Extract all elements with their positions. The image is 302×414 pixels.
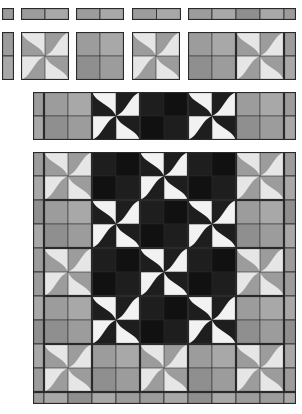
gray-pinwheel-block [236,344,284,392]
sashing-strip [76,8,124,20]
quilt-border-left [33,152,44,392]
gray-fourpatch-block [188,344,236,392]
gray-pinwheel-block [44,152,92,200]
gray-fourpatch-block [92,344,140,392]
bw-pinwheel-block [188,200,236,248]
corner-square [2,8,14,20]
quilt-border-right [284,152,296,392]
bw-pinwheel-block [188,92,236,140]
sashing-strip-vertical [284,92,296,140]
gray-fourpatch-block [44,92,92,140]
black-fourpatch-block [92,248,140,296]
bw-pinwheel-block [140,152,188,200]
black-fourpatch-block [140,296,188,344]
black-fourpatch-block [140,200,188,248]
gray-fourpatch-block [44,200,92,248]
sashing-strip-vertical [284,32,296,80]
black-fourpatch-block [188,152,236,200]
gray-pinwheel-block [44,344,92,392]
black-fourpatch-block [140,92,188,140]
black-fourpatch-block [92,152,140,200]
black-fourpatch-block [188,248,236,296]
gray-fourpatch-block [44,296,92,344]
gray-pinwheel-block [21,32,69,80]
bw-pinwheel-block [92,296,140,344]
gray-pinwheel-block [236,248,284,296]
sashing-strip [21,8,69,20]
gray-fourpatch-block [236,296,284,344]
bw-pinwheel-block [92,92,140,140]
gray-pinwheel-block [44,248,92,296]
gray-fourpatch-block [188,32,236,80]
gray-pinwheel-block [236,32,284,80]
bw-pinwheel-block [188,296,236,344]
sashing-strip-vertical [33,92,44,140]
quilt-border-bottom [33,392,296,404]
gray-pinwheel-block [140,344,188,392]
sashing-strip-vertical [2,32,14,80]
sashing-strip [188,8,296,20]
gray-pinwheel-block [236,152,284,200]
gray-fourpatch-block [76,32,124,80]
gray-fourpatch-block [236,200,284,248]
bw-pinwheel-block [92,200,140,248]
sashing-strip [132,8,181,20]
gray-fourpatch-block [236,92,284,140]
bw-pinwheel-block [140,248,188,296]
gray-pinwheel-block [132,32,180,80]
